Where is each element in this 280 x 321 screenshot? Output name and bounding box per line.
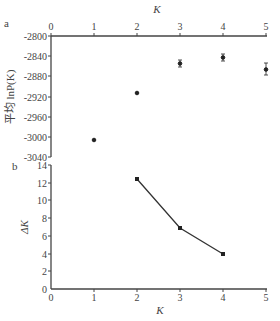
b-y-tick: 14 xyxy=(37,160,47,171)
a-y-tick: -3000 xyxy=(24,132,47,143)
b-x-ticks: 0 1 2 3 4 5 xyxy=(49,289,269,303)
a-y-axis-title: 平均 lnP(K) xyxy=(4,69,17,124)
a-y-ticks: -2800 -2840 -2880 -2920 -2960 -3000 -304… xyxy=(24,31,51,163)
a-data-points xyxy=(92,54,268,142)
point-k2 xyxy=(135,177,139,181)
b-x-tick-3: 3 xyxy=(178,292,183,303)
b-data-line xyxy=(135,177,225,256)
top-x-tick-5: 5 xyxy=(264,21,269,32)
top-x-ticks: 0 1 2 3 4 5 xyxy=(49,21,269,36)
point-k4 xyxy=(221,252,225,256)
top-x-axis-title: K xyxy=(152,3,161,15)
a-y-tick: -2920 xyxy=(24,92,47,103)
point-k3 xyxy=(178,226,182,230)
a-y-tick: -2880 xyxy=(24,71,47,82)
chart-figure: a K 0 1 2 3 4 5 -2800 xyxy=(0,0,280,321)
b-y-tick: 6 xyxy=(42,231,47,242)
a-y-tick: -2800 xyxy=(24,31,47,42)
point-k2 xyxy=(135,91,139,95)
a-y-tick: -2960 xyxy=(24,112,47,123)
b-y-tick: 12 xyxy=(37,178,47,189)
b-x-tick-5: 5 xyxy=(264,292,269,303)
top-x-tick-1: 1 xyxy=(92,21,97,32)
b-y-tick: 8 xyxy=(42,213,47,224)
b-y-tick: 10 xyxy=(37,195,47,206)
b-x-tick-2: 2 xyxy=(135,292,140,303)
b-y-axis-title: ΔK xyxy=(18,219,30,234)
b-x-tick-0: 0 xyxy=(49,292,54,303)
point-k5 xyxy=(264,63,268,75)
point-k1 xyxy=(92,138,96,142)
top-x-tick-4: 4 xyxy=(221,21,226,32)
panel-a-label: a xyxy=(4,17,9,29)
b-y-tick: 4 xyxy=(42,249,47,260)
b-y-tick: 2 xyxy=(42,266,47,277)
b-x-tick-4: 4 xyxy=(221,292,226,303)
top-x-tick-3: 3 xyxy=(178,21,183,32)
top-x-tick-2: 2 xyxy=(135,21,140,32)
point-k4 xyxy=(221,54,225,61)
b-y-ticks: 14 12 10 8 6 4 2 0 xyxy=(37,160,51,295)
b-y-tick: 0 xyxy=(42,284,47,295)
a-y-tick: -2840 xyxy=(24,51,47,62)
panel-b: b 14 12 10 8 6 4 2 0 0 1 xyxy=(12,160,269,316)
panel-a: a K 0 1 2 3 4 5 -2800 xyxy=(4,3,269,163)
panel-b-label: b xyxy=(12,160,18,172)
point-k3 xyxy=(178,60,182,67)
b-x-axis-title: K xyxy=(155,304,164,316)
top-x-tick-0: 0 xyxy=(49,21,54,32)
b-x-tick-1: 1 xyxy=(92,292,97,303)
